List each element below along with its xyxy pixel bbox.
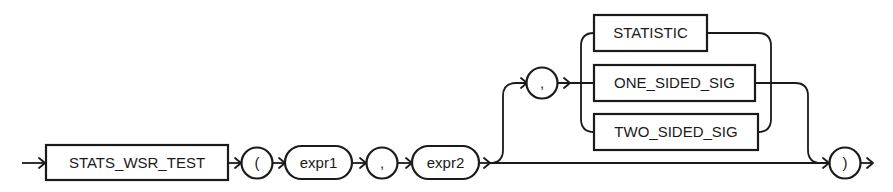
expr2-label: expr2 <box>427 154 465 171</box>
connector-arrow <box>272 158 285 168</box>
function-keyword-label: STATS_WSR_TEST <box>69 154 205 171</box>
expr1-nonterminal: expr1 <box>285 146 352 179</box>
option-two-sided-sig-label: TWO_SIDED_SIG <box>614 123 737 140</box>
function-keyword-box: STATS_WSR_TEST <box>46 145 228 180</box>
connector-arrow <box>352 158 366 168</box>
comma2-label: , <box>540 74 544 91</box>
choice-exit-path <box>755 83 821 163</box>
connector-arrow <box>397 158 412 168</box>
connector-arrow <box>228 158 241 168</box>
open-paren-label: ( <box>255 154 260 171</box>
syntax-diagram: STATS_WSR_TEST ( expr1 , expr2 <box>0 0 893 192</box>
entry-arrow <box>22 158 45 168</box>
comma-label: , <box>380 154 384 171</box>
open-paren-terminal: ( <box>242 148 273 179</box>
option-statistic: STATISTIC <box>594 15 707 51</box>
expr1-label: expr1 <box>300 154 338 171</box>
expr2-nonterminal: expr2 <box>412 146 479 179</box>
option-one-sided-sig: ONE_SIDED_SIG <box>594 65 755 101</box>
comma2-terminal: , <box>527 68 558 99</box>
close-paren-terminal: ) <box>830 148 861 179</box>
option-one-sided-sig-label: ONE_SIDED_SIG <box>614 74 735 91</box>
comma-terminal: , <box>367 148 398 179</box>
close-paren-label: ) <box>843 154 848 171</box>
connector-arrow <box>479 158 490 168</box>
exit-arrow <box>860 158 873 168</box>
option-statistic-label: STATISTIC <box>613 24 688 41</box>
option-two-sided-sig: TWO_SIDED_SIG <box>594 114 758 150</box>
optional-branch-path <box>490 83 527 163</box>
